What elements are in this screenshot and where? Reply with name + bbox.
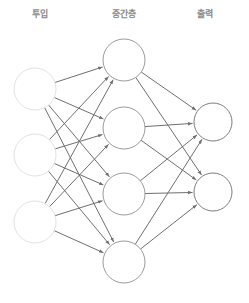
neuron-node-output-o1	[194, 103, 232, 141]
neuron-node-hidden-h4	[103, 241, 145, 283]
layer-label-output: 출력	[197, 10, 213, 19]
neuron-node-hidden-h3	[103, 173, 145, 215]
connection-edge	[141, 72, 196, 110]
layer-label-input: 투입	[32, 10, 48, 19]
neuron-node-output-o2	[194, 173, 232, 211]
neuron-node-input-i1	[14, 68, 56, 110]
connection-edge	[55, 201, 103, 216]
connection-edge	[54, 231, 103, 253]
neuron-node-hidden-h2	[103, 107, 145, 149]
connection-edge	[55, 67, 103, 83]
connection-edge	[141, 205, 197, 249]
neural-network-canvas	[0, 0, 249, 303]
neuron-node-hidden-h1	[103, 39, 145, 81]
neuron-node-input-i2	[14, 134, 56, 176]
neural-network-diagram: 투입 중간층 출력	[0, 0, 249, 303]
edge-group-hidden-to-output	[135, 72, 202, 249]
connection-edge	[49, 144, 108, 206]
node-group	[14, 39, 232, 283]
connection-edge	[49, 76, 108, 139]
neuron-node-input-i3	[14, 201, 56, 243]
connection-edge	[145, 192, 193, 193]
layer-label-hidden: 중간층	[112, 10, 137, 19]
